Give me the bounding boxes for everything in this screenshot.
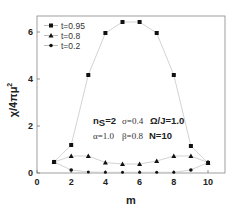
legend-item-t02: t=0.2: [44, 41, 80, 51]
x-axis: 0 2 4 6 8 10 m: [34, 170, 213, 206]
x-tick-label: 10: [203, 177, 213, 187]
svg-text:N=10: N=10: [149, 130, 172, 141]
svg-text:Ω/J=1.0: Ω/J=1.0: [150, 115, 184, 126]
x-tick-label: 8: [171, 177, 176, 187]
svg-text:α=1.0: α=1.0: [93, 131, 115, 141]
y-axis-label: χ/4πμ2: [6, 83, 19, 118]
svg-text:t=0.8: t=0.8: [61, 31, 80, 41]
series-t08: [52, 154, 211, 167]
legend-item-t095: t=0.95: [44, 21, 85, 31]
y-tick-label: 4: [28, 74, 33, 84]
svg-text:t=0.2: t=0.2: [61, 41, 80, 51]
svg-text:σ=0.4: σ=0.4: [122, 116, 144, 126]
legend-item-t08: t=0.8: [44, 31, 80, 41]
svg-text:β=0.8: β=0.8: [122, 131, 143, 141]
y-axis: 0 2 4 6 χ/4πμ2: [6, 27, 40, 178]
chart: 0 2 4 6 8 10 m 0 2 4 6 χ/4πμ2: [0, 0, 235, 215]
y-tick-label: 2: [28, 121, 33, 131]
y-tick-label: 0: [28, 168, 33, 178]
series-t02: [52, 160, 210, 174]
legend: t=0.95 t=0.8 t=0.2: [44, 21, 85, 51]
x-axis-label: m: [126, 194, 136, 206]
svg-text:nS=2: nS=2: [93, 115, 116, 128]
x-tick-label: 2: [69, 177, 74, 187]
y-tick-label: 6: [28, 27, 33, 37]
svg-text:χ/4πμ2: χ/4πμ2: [6, 83, 19, 118]
parameter-annotation: nS=2 σ=0.4 Ω/J=1.0 α=1.0 β=0.8 N=10: [93, 115, 184, 141]
x-tick-label: 0: [34, 177, 39, 187]
x-tick-label: 4: [103, 177, 108, 187]
svg-text:t=0.95: t=0.95: [61, 21, 85, 31]
x-tick-label: 6: [137, 177, 142, 187]
